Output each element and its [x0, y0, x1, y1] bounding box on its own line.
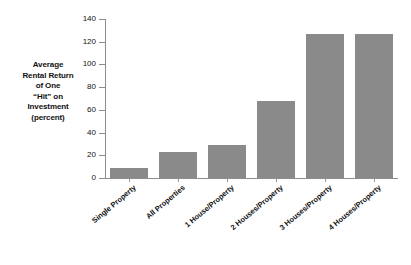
x-axis-tick-label: 1 House/Property: [183, 183, 236, 229]
x-axis-tick-label: 3 Houses/Property: [278, 183, 334, 232]
bar: [355, 34, 393, 178]
y-axis-tick-label: 20: [70, 151, 96, 159]
y-axis-tick-label: 60: [70, 106, 96, 114]
x-axis-tick-label: Single Property: [91, 183, 139, 225]
y-axis-tick-label-wrap: 20: [68, 151, 96, 159]
y-axis-title-line: Rental Return: [8, 71, 88, 82]
y-axis-tick-label: 140: [70, 15, 96, 23]
y-axis-title-line: (percent): [8, 113, 88, 124]
bar: [159, 152, 197, 178]
x-axis-line: [105, 178, 398, 179]
x-axis-tick: [129, 179, 130, 182]
y-axis-tick-label: 100: [70, 60, 96, 68]
x-axis-tick: [178, 179, 179, 182]
bar-chart: Average Rental Return of One “Hit” on In…: [0, 0, 411, 265]
y-axis-tick-label-wrap: 40: [68, 129, 96, 137]
bar: [257, 101, 295, 178]
x-axis-tick: [276, 179, 277, 182]
y-axis-tick-label-wrap: 140: [68, 15, 96, 23]
bar: [208, 145, 246, 178]
y-axis-tick: [99, 178, 106, 179]
x-axis-tick-label: 2 Houses/Property: [229, 183, 285, 232]
x-axis-tick: [325, 179, 326, 182]
bar: [110, 168, 148, 178]
x-axis-tick: [374, 179, 375, 182]
x-axis-tick-label: All Properties: [144, 183, 187, 221]
y-axis-tick-label-wrap: 60: [68, 106, 96, 114]
y-axis-tick-label: 0: [70, 174, 96, 182]
x-axis-tick-label: 4 Houses/Property: [326, 183, 382, 232]
y-axis-tick-label-wrap: 120: [68, 38, 96, 46]
y-axis-tick-label-wrap: 100: [68, 60, 96, 68]
bar: [306, 34, 344, 178]
y-axis-tick-label: 80: [70, 83, 96, 91]
plot-area: [105, 19, 398, 178]
y-axis-tick-label-wrap: 0: [68, 174, 96, 182]
y-axis-tick-label: 40: [70, 129, 96, 137]
y-axis-tick-label-wrap: 80: [68, 83, 96, 91]
y-axis-title-line: “Hit” on: [8, 92, 88, 103]
y-axis-tick-label: 120: [70, 38, 96, 46]
x-axis-tick: [227, 179, 228, 182]
